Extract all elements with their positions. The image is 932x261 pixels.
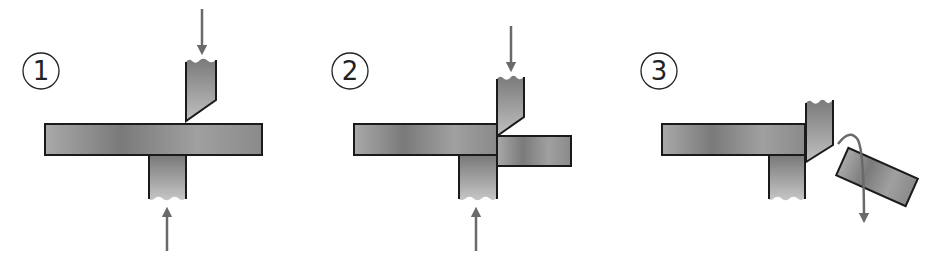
workpiece-remaining [662, 124, 805, 155]
workpiece [45, 124, 262, 155]
step-1-label: 1 [33, 56, 50, 86]
lower-die [769, 156, 805, 200]
step-1: 1 [23, 9, 262, 251]
lower-die [149, 156, 186, 200]
step-2-label: 2 [342, 56, 359, 86]
shearing-diagram: 1 2 3 [0, 0, 932, 261]
step-3: 3 [641, 53, 918, 218]
sheared-piece-falling [836, 148, 918, 206]
workpiece-sheared-part [497, 136, 571, 166]
workpiece-remaining [354, 124, 497, 155]
step-3-label: 3 [651, 56, 668, 86]
step-2: 2 [332, 26, 571, 251]
lower-die [459, 156, 497, 200]
